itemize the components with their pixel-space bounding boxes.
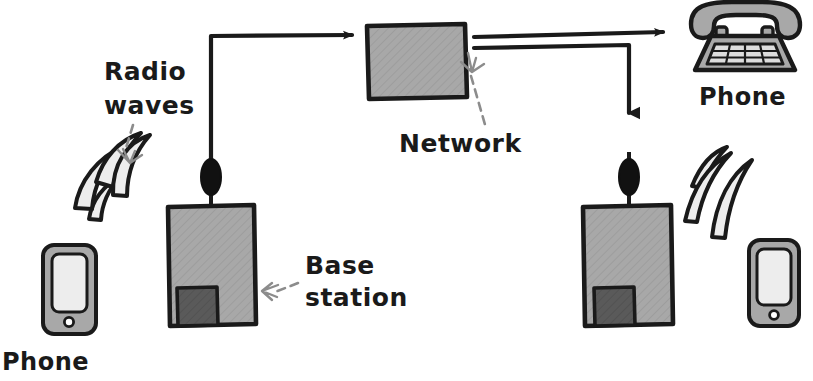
network-label: Network <box>399 129 522 158</box>
phone-right-label: Phone <box>699 83 786 111</box>
network-diagram: Radio waves Base station Network Phone P… <box>0 0 813 381</box>
base-station-label-line1: Base <box>305 251 375 280</box>
mobile-phone-right-button <box>770 311 779 320</box>
phone-left-label: Phone <box>2 348 89 376</box>
mobile-phone-left-screen <box>52 254 87 312</box>
mobile-phone-left <box>43 245 96 334</box>
base-station-label-line2: station <box>305 283 408 312</box>
mobile-phone-right-screen <box>757 249 791 305</box>
mobile-phone-right <box>749 240 799 326</box>
base-station-right-door <box>594 287 635 326</box>
network-box-shape <box>367 24 467 99</box>
radio-waves-label-line2: waves <box>104 91 195 120</box>
landline-phone <box>691 2 800 70</box>
mobile-phone-left-button <box>64 317 73 326</box>
radio-waves-label-line1: Radio <box>104 57 186 86</box>
antenna-element-right <box>619 159 639 195</box>
network-box <box>367 24 467 99</box>
diagram-canvas: Radio waves Base station Network Phone P… <box>0 0 813 381</box>
antenna-element-left <box>201 159 221 195</box>
base-station-left-door <box>177 287 218 326</box>
